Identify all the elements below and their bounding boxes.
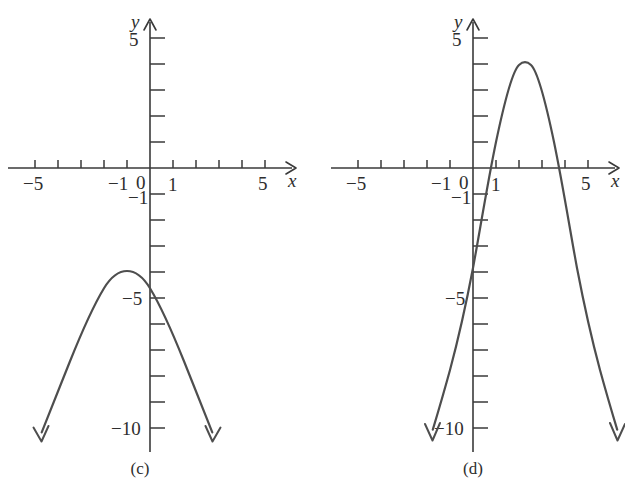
- panel-c-ytick-label-5: 5: [129, 29, 139, 50]
- panel-c: y x −5 −1 1 5 0 5 −1 −5 −10 (c): [8, 11, 297, 478]
- panel-d-curve-right-arrow-icon: [610, 423, 625, 441]
- panel-d-x-axis-label: x: [610, 170, 620, 191]
- panel-d-ytick-label--1: −1: [451, 187, 471, 208]
- panel-c-y-ticks: [150, 38, 165, 428]
- panel-d-xtick-label--5: −5: [346, 173, 366, 194]
- panel-d-xtick-label-5: 5: [581, 173, 591, 194]
- panel-c-curve-right-arrow-icon: [206, 426, 221, 442]
- panel-d-xtick-label--1: −1: [431, 173, 451, 194]
- panel-c-curve-left-arrow-icon: [34, 426, 49, 442]
- panel-c-xtick-label-5: 5: [258, 173, 268, 194]
- panel-c-xtick-label--1: −1: [108, 173, 128, 194]
- panel-d-y-ticks: [473, 38, 488, 428]
- panel-c-x-axis-label: x: [287, 170, 297, 191]
- panel-c-xtick-label-1: 1: [168, 174, 178, 195]
- two-panel-parabola-figure: y x −5 −1 1 5 0 5 −1 −5 −10 (c): [0, 0, 625, 479]
- panel-c-ytick-label--1: −1: [128, 187, 148, 208]
- panel-d: y x −5 −1 1 5 0 5 −1 −5 −10 (d): [331, 11, 625, 478]
- panel-d-caption: (d): [463, 459, 483, 478]
- panel-d-xtick-label-1: 1: [491, 174, 501, 195]
- panel-d-ytick-label--5: −5: [445, 288, 465, 309]
- panel-c-ytick-label--5: −5: [122, 288, 142, 309]
- panel-c-caption: (c): [131, 459, 150, 478]
- panel-d-parabola: [433, 62, 617, 429]
- panel-c-ytick-label--10: −10: [111, 418, 141, 439]
- panel-d-ytick-label-5: 5: [452, 29, 462, 50]
- panel-c-xtick-label--5: −5: [23, 173, 43, 194]
